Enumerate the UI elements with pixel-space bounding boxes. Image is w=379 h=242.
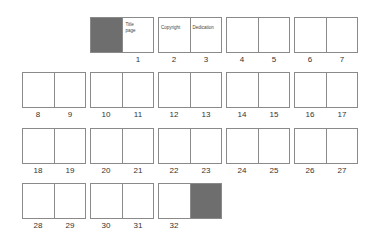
page <box>327 18 358 52</box>
page-number: 17 <box>326 110 358 119</box>
page-number: 16 <box>294 110 326 119</box>
page-number: 4 <box>226 55 258 64</box>
page <box>295 129 327 163</box>
page-number: 30 <box>90 221 122 230</box>
page <box>55 129 86 163</box>
page-number: 10 <box>90 110 122 119</box>
page-number: 11 <box>122 110 154 119</box>
page-number: 28 <box>22 221 54 230</box>
page-spread <box>22 128 86 164</box>
page-spread <box>90 72 154 108</box>
page <box>23 129 55 163</box>
blank-shaded-page <box>91 18 123 52</box>
page <box>91 73 123 107</box>
page <box>123 73 154 107</box>
page-spread: Title page <box>90 17 154 53</box>
page-number: 14 <box>226 110 258 119</box>
page <box>55 184 86 218</box>
page-number: 12 <box>158 110 190 119</box>
page-spread <box>294 72 358 108</box>
page <box>227 129 259 163</box>
page-content-label: Copyright <box>161 25 180 31</box>
page-spread <box>226 17 290 53</box>
page-spread <box>90 183 154 219</box>
page <box>91 129 123 163</box>
page-spread <box>226 128 290 164</box>
page <box>191 73 222 107</box>
page-number: 24 <box>226 166 258 175</box>
page <box>91 184 123 218</box>
page <box>259 18 290 52</box>
page-content-label: Dedication <box>193 25 214 31</box>
page: Title page <box>123 18 154 52</box>
page <box>191 129 222 163</box>
page <box>327 73 358 107</box>
page-number: 22 <box>158 166 190 175</box>
page-number: 19 <box>54 166 86 175</box>
blank-shaded-page <box>191 184 222 218</box>
page-spread <box>158 72 222 108</box>
page <box>123 129 154 163</box>
page-spread <box>22 183 86 219</box>
page-number: 2 <box>158 55 190 64</box>
page-number: 3 <box>190 55 222 64</box>
page-spread <box>226 72 290 108</box>
page-number: 32 <box>158 221 190 230</box>
page-number: 5 <box>258 55 290 64</box>
page <box>227 73 259 107</box>
page <box>23 73 55 107</box>
page <box>295 18 327 52</box>
page-number: 8 <box>22 110 54 119</box>
page-number: 29 <box>54 221 86 230</box>
page-number: 7 <box>326 55 358 64</box>
page <box>159 184 191 218</box>
page-number: 15 <box>258 110 290 119</box>
page: Dedication <box>191 18 222 52</box>
page <box>23 184 55 218</box>
page-spread <box>294 128 358 164</box>
page-number: 6 <box>294 55 326 64</box>
page <box>295 73 327 107</box>
page-number: 27 <box>326 166 358 175</box>
page <box>259 129 290 163</box>
page-spread <box>158 128 222 164</box>
page-spread: CopyrightDedication <box>158 17 222 53</box>
page-number: 9 <box>54 110 86 119</box>
page-number: 20 <box>90 166 122 175</box>
page-content-label: Title page <box>126 22 142 34</box>
page-spread <box>158 183 222 219</box>
page-spread <box>90 128 154 164</box>
page-number: 1 <box>122 55 154 64</box>
page <box>159 129 191 163</box>
page <box>327 129 358 163</box>
page-number: 21 <box>122 166 154 175</box>
page-number: 25 <box>258 166 290 175</box>
page <box>159 73 191 107</box>
page: Copyright <box>159 18 191 52</box>
page <box>123 184 154 218</box>
page-number: 18 <box>22 166 54 175</box>
page-number: 23 <box>190 166 222 175</box>
page <box>227 18 259 52</box>
page <box>55 73 86 107</box>
page-spread <box>294 17 358 53</box>
page-number: 13 <box>190 110 222 119</box>
page <box>259 73 290 107</box>
page-spread <box>22 72 86 108</box>
page-number: 26 <box>294 166 326 175</box>
page-number: 31 <box>122 221 154 230</box>
